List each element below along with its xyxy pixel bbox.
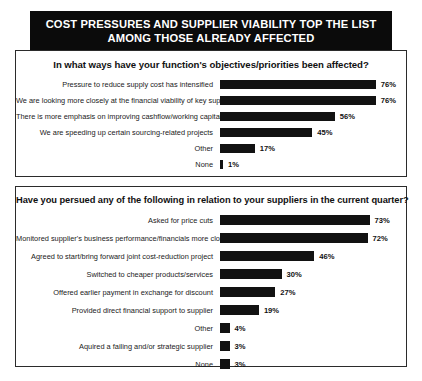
bar-row-label: We are looking more closely at the finan… <box>16 96 220 105</box>
bar-value-label: 1% <box>228 160 239 169</box>
bar-value-label: 27% <box>280 288 295 297</box>
chart-title-2: Have you persued any of the following in… <box>16 195 406 205</box>
bar-value-label: 76% <box>381 96 396 105</box>
bar-track: 1% <box>220 160 406 169</box>
bar-track: 19% <box>220 305 406 315</box>
bar-row-label: None <box>16 160 220 169</box>
bar-row-label: Monitored supplier's business performanc… <box>16 234 220 243</box>
chart-panel-objectives: In what ways have your function's object… <box>15 50 407 177</box>
bar-fill <box>220 233 368 243</box>
bar-fill <box>220 80 376 89</box>
bar-row-label: Offered earlier payment in exchange for … <box>16 288 220 297</box>
bar-value-label: 73% <box>375 216 390 225</box>
bar-value-label: 45% <box>317 128 332 137</box>
bar-row-label: Switched to cheaper products/services <box>16 270 220 279</box>
bar-row-label: Agreed to start/bring forward joint cost… <box>16 252 220 261</box>
bar-row: Pressure to reduce supply cost has inten… <box>16 76 406 92</box>
bar-row: We are speeding up certain sourcing-rela… <box>16 124 406 140</box>
bar-row-label: Provided direct financial support to sup… <box>16 306 220 315</box>
bar-row: We are looking more closely at the finan… <box>16 92 406 108</box>
bar-value-label: 46% <box>319 252 334 261</box>
chart-title-1: In what ways have your function's object… <box>16 59 406 70</box>
bar-track: 45% <box>220 128 406 137</box>
infographic-poster: COST PRESSURES AND SUPPLIER VIABILITY TO… <box>0 0 422 381</box>
poster-banner: COST PRESSURES AND SUPPLIER VIABILITY TO… <box>30 11 392 50</box>
bar-row: Monitored supplier's business performanc… <box>16 229 406 247</box>
bar-row: None3% <box>16 355 406 373</box>
bar-row-label: We are speeding up certain sourcing-rela… <box>16 128 220 137</box>
bar-row-list-2: Asked for price cuts73%Monitored supplie… <box>16 211 406 373</box>
bar-row-label: Other <box>16 324 220 333</box>
bar-fill <box>220 112 335 121</box>
bar-track: 73% <box>220 215 406 225</box>
bar-track: 4% <box>220 323 406 333</box>
bar-track: 27% <box>220 287 406 297</box>
bar-track: 72% <box>220 233 406 243</box>
bar-row: Agreed to start/bring forward joint cost… <box>16 247 406 265</box>
bar-row: None1% <box>16 156 406 172</box>
bar-track: 76% <box>220 96 406 105</box>
bar-value-label: 3% <box>235 342 246 351</box>
banner-title-line-2: AMONG THOSE ALREADY AFFECTED <box>108 31 315 45</box>
bar-track: 17% <box>220 144 406 153</box>
bar-row-label: None <box>16 360 220 369</box>
bar-value-label: 56% <box>340 112 355 121</box>
bar-row: Other4% <box>16 319 406 337</box>
bar-fill <box>220 269 282 279</box>
bar-row: There is more emphasis on improving cash… <box>16 108 406 124</box>
bar-row: Other17% <box>16 140 406 156</box>
bar-value-label: 76% <box>381 80 396 89</box>
bar-row-label: Aquired a failing and/or strategic suppl… <box>16 342 220 351</box>
bar-row-label: There is more emphasis on improving cash… <box>16 112 220 121</box>
bar-fill <box>220 341 230 351</box>
bar-row-label: Other <box>16 144 220 153</box>
bar-row: Offered earlier payment in exchange for … <box>16 283 406 301</box>
bar-fill <box>220 251 314 261</box>
bar-value-label: 3% <box>235 360 246 369</box>
bar-fill <box>220 359 230 369</box>
bar-row: Aquired a failing and/or strategic suppl… <box>16 337 406 355</box>
bar-fill <box>220 96 376 105</box>
bar-fill <box>220 305 259 315</box>
bar-track: 30% <box>220 269 406 279</box>
bar-fill <box>220 287 275 297</box>
bar-row: Provided direct financial support to sup… <box>16 301 406 319</box>
bar-value-label: 4% <box>235 324 246 333</box>
bar-fill <box>220 323 230 333</box>
bar-track: 56% <box>220 112 406 121</box>
bar-track: 3% <box>220 359 406 369</box>
bar-fill <box>220 215 370 225</box>
bar-track: 76% <box>220 80 406 89</box>
bar-value-label: 72% <box>373 234 388 243</box>
bar-row: Asked for price cuts73% <box>16 211 406 229</box>
bar-track: 46% <box>220 251 406 261</box>
banner-title-line-1: COST PRESSURES AND SUPPLIER VIABILITY TO… <box>46 17 377 31</box>
bar-value-label: 19% <box>264 306 279 315</box>
bar-fill <box>220 160 223 169</box>
bar-value-label: 17% <box>260 144 275 153</box>
bar-fill <box>220 144 255 153</box>
bar-row: Switched to cheaper products/services30% <box>16 265 406 283</box>
bar-fill <box>220 128 312 137</box>
bar-row-list-1: Pressure to reduce supply cost has inten… <box>16 76 406 172</box>
bar-track: 3% <box>220 341 406 351</box>
bar-row-label: Pressure to reduce supply cost has inten… <box>16 80 220 89</box>
chart-panel-supplier-actions: Have you persued any of the following in… <box>15 186 407 367</box>
bar-row-label: Asked for price cuts <box>16 216 220 225</box>
bar-value-label: 30% <box>287 270 302 279</box>
